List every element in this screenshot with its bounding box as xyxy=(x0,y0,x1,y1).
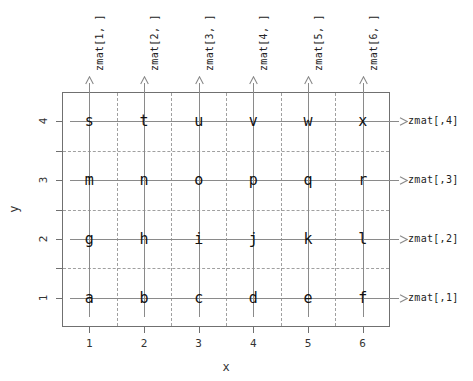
y-axis-line xyxy=(62,92,63,327)
column-arrow-head-icon xyxy=(195,76,204,85)
cell-letter: u xyxy=(190,112,208,130)
row-index-label: zmat[,1] xyxy=(408,292,459,304)
x-axis-tick xyxy=(363,327,364,333)
cell-letter: s xyxy=(80,112,98,130)
matrix-index-figure: stuvwxmnopqrghijklabcdef 1234561234 zmat… xyxy=(0,0,473,381)
cell-letter: q xyxy=(299,171,317,189)
x-axis-tick xyxy=(144,327,145,333)
x-axis-tick xyxy=(89,327,90,333)
y-axis-tick xyxy=(56,121,62,122)
row-guide-line xyxy=(70,298,399,299)
row-guide-line xyxy=(70,239,399,240)
cell-boundary-horizontal xyxy=(63,151,389,152)
x-axis-tick xyxy=(199,327,200,333)
row-arrow-head-icon xyxy=(399,294,408,303)
column-index-label: zmat[2, ] xyxy=(149,14,161,71)
row-index-label: zmat[,4] xyxy=(408,115,459,127)
row-arrow-head-icon xyxy=(399,176,408,185)
y-axis-tick xyxy=(56,298,62,299)
cell-letter: o xyxy=(190,171,208,189)
y-axis-tick-label: 3 xyxy=(37,170,51,190)
column-arrow-head-icon xyxy=(359,76,368,85)
cell-letter: d xyxy=(244,289,262,307)
row-guide-line xyxy=(70,121,399,122)
cell-letter: f xyxy=(354,289,372,307)
cell-letter: t xyxy=(135,112,153,130)
cell-letter: w xyxy=(299,112,317,130)
cell-letter: v xyxy=(244,112,262,130)
y-axis-tick-label: 2 xyxy=(37,229,51,249)
y-axis-tick-label: 1 xyxy=(37,288,51,308)
cell-letter: k xyxy=(299,230,317,248)
column-arrow-head-icon xyxy=(85,76,94,85)
y-axis-minor-tick xyxy=(56,210,62,211)
column-index-label: zmat[4, ] xyxy=(258,14,270,71)
x-axis-tick-label: 4 xyxy=(243,337,263,350)
column-index-label: zmat[6, ] xyxy=(368,14,380,71)
x-axis-tick-label: 2 xyxy=(134,337,154,350)
cell-boundary-horizontal xyxy=(63,268,389,269)
x-axis-tick-label: 1 xyxy=(79,337,99,350)
cell-letter: a xyxy=(80,289,98,307)
row-arrow-head-icon xyxy=(399,235,408,244)
y-axis-tick-label: 4 xyxy=(37,111,51,131)
y-axis-minor-tick xyxy=(56,268,62,269)
cell-letter: i xyxy=(190,230,208,248)
cell-letter: g xyxy=(80,230,98,248)
y-axis-minor-tick xyxy=(56,151,62,152)
y-axis-title: y xyxy=(7,199,21,219)
row-guide-line xyxy=(70,180,399,181)
cell-letter: h xyxy=(135,230,153,248)
cell-letter: n xyxy=(135,171,153,189)
row-index-label: zmat[,2] xyxy=(408,233,459,245)
cell-letter: p xyxy=(244,171,262,189)
cell-letter: c xyxy=(190,289,208,307)
x-axis-tick xyxy=(308,327,309,333)
cell-letter: b xyxy=(135,289,153,307)
column-arrow-head-icon xyxy=(304,76,313,85)
x-axis-title: x xyxy=(0,360,452,374)
x-axis-tick-label: 6 xyxy=(353,337,373,350)
column-index-label: zmat[5, ] xyxy=(313,14,325,71)
cell-letter: l xyxy=(354,230,372,248)
cell-letter: x xyxy=(354,112,372,130)
cell-letter: j xyxy=(244,230,262,248)
cell-letter: r xyxy=(354,171,372,189)
x-axis-tick-label: 5 xyxy=(298,337,318,350)
column-index-label: zmat[3, ] xyxy=(204,14,216,71)
row-index-label: zmat[,3] xyxy=(408,174,459,186)
column-arrow-head-icon xyxy=(249,76,258,85)
cell-letter: e xyxy=(299,289,317,307)
column-index-label: zmat[1, ] xyxy=(94,14,106,71)
x-axis-tick-label: 3 xyxy=(189,337,209,350)
column-arrow-head-icon xyxy=(140,76,149,85)
row-arrow-head-icon xyxy=(399,117,408,126)
cell-boundary-horizontal xyxy=(63,210,389,211)
x-axis-tick xyxy=(253,327,254,333)
y-axis-tick xyxy=(56,239,62,240)
cell-letter: m xyxy=(80,171,98,189)
y-axis-tick xyxy=(56,180,62,181)
